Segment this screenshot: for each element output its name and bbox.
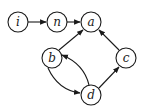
edge-b-to-d bbox=[48, 68, 80, 93]
node-b: b bbox=[42, 48, 62, 68]
node-label-n: n bbox=[53, 15, 61, 29]
graph-svg: i n a b c d bbox=[0, 0, 145, 112]
edge-c-to-a bbox=[99, 30, 119, 50]
edge-b-to-a bbox=[59, 30, 83, 50]
edge-d-to-b bbox=[62, 55, 89, 85]
node-d: d bbox=[81, 85, 101, 105]
node-c: c bbox=[116, 48, 136, 68]
node-i: i bbox=[8, 12, 28, 32]
node-label-a: a bbox=[87, 15, 94, 29]
graph-diagram: i n a b c d bbox=[0, 0, 145, 112]
node-label-c: c bbox=[123, 51, 130, 65]
node-label-i: i bbox=[16, 15, 20, 29]
node-a: a bbox=[81, 12, 101, 32]
node-label-d: d bbox=[87, 88, 95, 102]
node-label-b: b bbox=[48, 51, 56, 65]
node-n: n bbox=[47, 12, 67, 32]
edge-d-to-c bbox=[99, 67, 119, 88]
